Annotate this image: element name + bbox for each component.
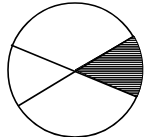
circle-diagram <box>0 0 151 137</box>
